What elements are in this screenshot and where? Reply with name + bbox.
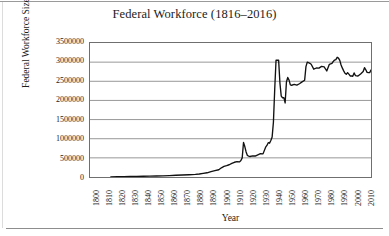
- x-tick-label: 1820: [119, 190, 127, 206]
- x-tick-label: 1950: [289, 190, 297, 206]
- plot-area: [89, 42, 372, 178]
- x-tick-label: 1940: [276, 190, 284, 206]
- y-tick-label: 1500000: [18, 116, 84, 124]
- x-tick-label: 1830: [132, 190, 140, 206]
- y-tick-label: 3500000: [18, 38, 84, 46]
- data-series-line: [111, 57, 371, 177]
- x-tick-label: 1880: [197, 190, 205, 206]
- x-axis-tick-labels: 1800181018201830184018501860187018801890…: [89, 180, 372, 214]
- x-axis-title: Year: [89, 213, 372, 223]
- x-tick-label: 1860: [171, 190, 179, 206]
- chart-title: Federal Workforce (1816–2016): [0, 7, 389, 22]
- x-tick-label: 2000: [355, 190, 363, 206]
- x-tick-label: 1850: [158, 190, 166, 206]
- y-tick-label: 3000000: [18, 57, 84, 65]
- top-divider-rule: [0, 1, 389, 2]
- x-tick-label: 1970: [315, 190, 323, 206]
- left-divider-rule: [2, 2, 3, 228]
- x-tick-label: 1930: [263, 190, 271, 206]
- x-tick-label: 1900: [224, 190, 232, 206]
- bottom-divider-rule: [6, 228, 383, 229]
- y-tick-label: 2000000: [18, 96, 84, 104]
- x-tick-label: 1840: [145, 190, 153, 206]
- gridlines: [90, 62, 371, 158]
- x-tick-label: 1910: [237, 190, 245, 206]
- y-axis-tick-labels: 0500000100000015000002000000250000030000…: [18, 42, 84, 178]
- x-tick-label: 1890: [210, 190, 218, 206]
- chart-figure: Federal Workforce (1816–2016) Federal Wo…: [0, 0, 389, 236]
- y-tick-label: 0: [18, 174, 84, 182]
- x-tick-label: 2010: [368, 190, 376, 206]
- x-tick-label: 1870: [184, 190, 192, 206]
- x-tick-label: 1920: [250, 190, 258, 206]
- y-tick-label: 500000: [18, 155, 84, 163]
- x-tick-label: 1990: [341, 190, 349, 206]
- y-tick-label: 2500000: [18, 77, 84, 85]
- x-tick-label: 1810: [106, 190, 114, 206]
- x-tick-label: 1960: [302, 190, 310, 206]
- x-tick-label: 1800: [93, 190, 101, 206]
- y-tick-label: 1000000: [18, 135, 84, 143]
- line-chart-svg: [90, 43, 371, 177]
- x-tick-label: 1980: [328, 190, 336, 206]
